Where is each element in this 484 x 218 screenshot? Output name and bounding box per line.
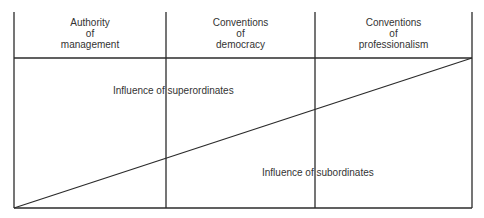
column-header-conventions-of-professionalism: Conventions of professionalism: [315, 17, 472, 50]
influence-diagonal-line: [14, 58, 472, 208]
column-header-authority-of-management: Authority of management: [14, 17, 166, 50]
column-header-line: democracy: [166, 39, 315, 50]
column-header-line: of: [166, 28, 315, 39]
column-header-line: Authority: [14, 17, 166, 28]
column-header-conventions-of-democracy: Conventions of democracy: [166, 17, 315, 50]
column-header-line: of: [315, 28, 472, 39]
column-header-line: Conventions: [166, 17, 315, 28]
column-header-line: of: [14, 28, 166, 39]
label-influence-of-subordinates: Influence of subordinates: [262, 167, 374, 179]
label-influence-of-superordinates: Influence of superordinates: [113, 85, 234, 97]
column-header-line: professionalism: [315, 39, 472, 50]
column-header-line: Conventions: [315, 17, 472, 28]
column-header-line: management: [14, 39, 166, 50]
